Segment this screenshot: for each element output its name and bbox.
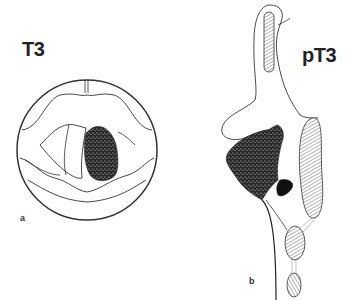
panel-a-title: T3 [22, 38, 44, 61]
figure-canvas [0, 0, 350, 300]
panel-a-larynx-view [17, 80, 157, 220]
panel-b-letter: b [249, 276, 255, 286]
panel-b-title: pT3 [302, 44, 336, 67]
tumor-b [226, 125, 283, 200]
tumor-a [84, 127, 118, 181]
panel-a-letter: a [20, 213, 25, 223]
